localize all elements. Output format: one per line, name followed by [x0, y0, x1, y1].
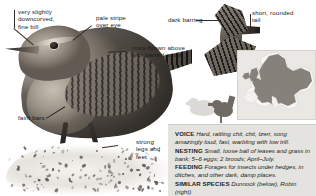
leader-line-short-tail: [250, 14, 251, 32]
ground-speck: [113, 159, 115, 163]
ground-speck: [52, 146, 55, 149]
ground-speck: [43, 149, 47, 153]
ground-speck: [121, 149, 125, 153]
fact-row-similar-species: SIMILAR SPECIES Dunnock (below), Robin (…: [175, 180, 310, 196]
ground-speck: [136, 169, 140, 171]
ground-speck: [113, 175, 116, 178]
silhouette-tail: [227, 95, 235, 107]
ground-speck: [83, 174, 87, 177]
ground-speck: [26, 188, 28, 190]
ground-speck: [43, 155, 45, 157]
ground-speck: [66, 150, 68, 152]
ground-speck: [100, 156, 103, 159]
ground-speck: [84, 185, 86, 188]
fact-key-similar-species: SIMILAR SPECIES: [175, 180, 230, 187]
ground-speck: [72, 186, 75, 190]
ground-speck: [41, 164, 45, 168]
ground-speck: [88, 177, 90, 180]
ground-speck: [33, 153, 37, 157]
annotation-short-tail: short, rounded tail: [252, 9, 294, 24]
ground-speck: [96, 149, 99, 151]
ground-speck: [127, 165, 129, 168]
ground-speck: [124, 185, 129, 190]
ground-speck: [151, 163, 154, 165]
ground-speck: [104, 165, 106, 169]
ground-speck: [58, 170, 60, 172]
ground-speck: [17, 168, 20, 171]
ground-speck: [48, 173, 52, 177]
fact-key-feeding: FEEDING: [175, 163, 203, 170]
ground-speck: [52, 168, 54, 172]
ground-speck: [139, 173, 142, 176]
annotation-rusty-brown: rusty-brown above with barred wings: [132, 44, 185, 59]
ground-speck: [61, 150, 64, 154]
ground-speck: [125, 148, 129, 152]
ground-speck: [45, 168, 49, 171]
ground-speck: [141, 190, 143, 192]
ground-speck: [54, 188, 58, 192]
ground-speck: [52, 151, 56, 153]
ground-speck: [98, 187, 99, 191]
ground-speck: [125, 158, 127, 160]
ground-speck: [116, 189, 119, 192]
ground-speck: [107, 175, 109, 177]
ground-speck: [124, 162, 126, 165]
leader-line-bill-stem: [14, 10, 15, 28]
ground-speck: [154, 174, 155, 177]
ground-speck: [109, 179, 113, 182]
annotation-faint-bars: faint bars: [18, 114, 45, 121]
ground-speck: [29, 175, 32, 178]
annotation-dark-barring: dark barring: [168, 16, 203, 23]
ground-speck: [98, 182, 103, 185]
ground-speck: [47, 179, 50, 182]
ground-speck: [59, 163, 62, 165]
ground-speck: [71, 174, 75, 178]
ground-speck: [65, 164, 68, 168]
annotation-pale-stripe: pale stripe over eye: [96, 14, 126, 29]
ground-speck: [79, 169, 82, 172]
ground-speck: [39, 163, 42, 165]
ground-speck: [79, 155, 83, 158]
annotation-strong-legs: strong legs and feet: [136, 138, 160, 160]
field-guide-page: very slightly downcurved, fine bill pale…: [0, 0, 316, 196]
annotation-fine-bill: very slightly downcurved, fine bill: [18, 8, 54, 30]
size-comparison-silhouettes: [186, 92, 240, 124]
silhouette-leg: [220, 116, 222, 123]
ground-speck: [130, 154, 134, 158]
fact-key-nesting: NESTING: [175, 147, 203, 154]
ground-speck: [79, 176, 83, 180]
ground-speck: [92, 174, 96, 178]
ground-speck: [70, 180, 74, 183]
ground-speck: [56, 176, 60, 180]
fact-panel: VOICE Hard, rattling chit, chit, tzerr, …: [168, 124, 316, 196]
ground-speck: [149, 171, 151, 173]
ground-speck: [41, 184, 42, 186]
ground-speck: [145, 165, 150, 170]
ground-speck: [72, 159, 74, 161]
fact-row-voice: VOICE Hard, rattling chit, chit, tzerr, …: [175, 130, 310, 146]
ground-speck: [150, 186, 154, 190]
map-landmass: [238, 51, 315, 119]
ground-speck: [33, 189, 34, 190]
ground-speck: [118, 181, 121, 184]
ground-speck: [105, 183, 107, 185]
ground-speck: [22, 155, 25, 158]
ground-speck: [121, 173, 124, 176]
ground-speck: [118, 155, 120, 157]
fact-key-voice: VOICE: [175, 130, 194, 137]
ground-speck: [99, 170, 101, 173]
fact-row-nesting: NESTING Small, loose ball of leaves and …: [175, 147, 310, 163]
fact-row-feeding: FEEDING Forages for insects under hedges…: [175, 163, 310, 179]
ground-speck: [34, 181, 37, 183]
ground-speck: [133, 188, 135, 190]
europe-distribution-map: [237, 50, 316, 120]
ground-speck: [129, 168, 133, 172]
ground-speck: [81, 163, 86, 168]
ground-speck: [58, 147, 60, 149]
ground-speck: [21, 184, 25, 188]
wren-eye: [50, 42, 58, 49]
ground-speck: [43, 185, 45, 188]
